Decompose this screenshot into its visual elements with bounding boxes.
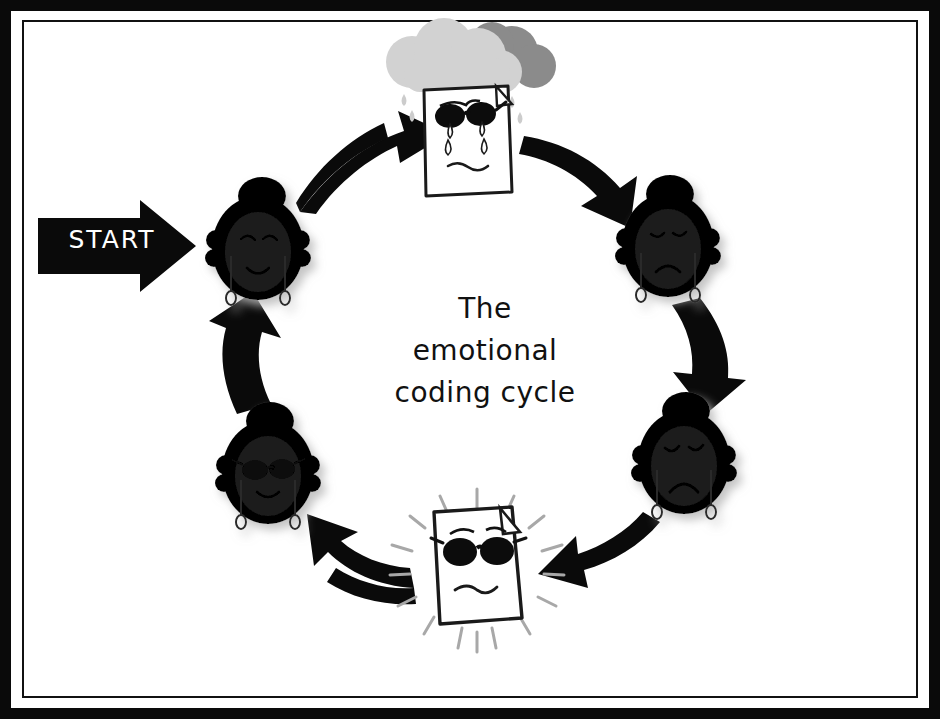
comic-panel: START The emotional coding cycle: [0, 0, 940, 719]
diagram-title: The emotional coding cycle: [355, 288, 615, 414]
